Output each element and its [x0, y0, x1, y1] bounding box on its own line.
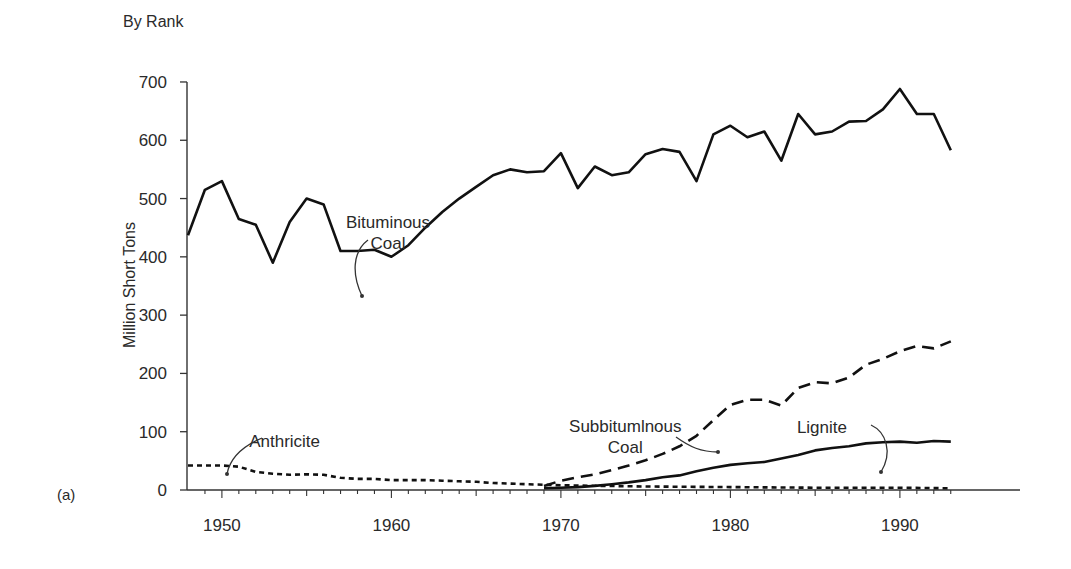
arrowhead-icon [879, 470, 883, 474]
axes: 0100200300400500600700 19501960197019801… [139, 73, 1020, 535]
y-tick-label: 400 [139, 248, 167, 267]
x-tick-label: 1980 [711, 516, 749, 535]
arrowhead-icon [360, 294, 364, 298]
annotation-subbitumlnous-coal: SubbitumlnousCoal [569, 417, 681, 457]
x-ticks: 19501960197019801990 [203, 490, 951, 535]
coal-production-chart: By Rank Million Short Tons (a) 010020030… [0, 0, 1071, 569]
annotation-anthricite: Anthricite [249, 432, 320, 451]
x-tick-label: 1990 [881, 516, 919, 535]
annotation-bituminous-coal: BituminousCoal [346, 213, 430, 253]
arrowhead-icon [225, 472, 229, 476]
annotation-text: Coal [608, 438, 643, 457]
annotation-text: Coal [371, 234, 406, 253]
y-tick-label: 700 [139, 73, 167, 92]
y-ticks: 0100200300400500600700 [139, 73, 187, 500]
annotation-lignite: Lignite [797, 418, 847, 437]
arrowhead-icon [716, 450, 720, 454]
series-anthricite [188, 466, 951, 489]
y-axis-label: Million Short Tons [121, 222, 138, 348]
annotation-text: Bituminous [346, 213, 430, 232]
annotation-layer: BituminousCoalSubbitumlnousCoalLigniteAn… [225, 213, 887, 476]
chart-title: By Rank [123, 13, 184, 30]
series-bituminous-coal [188, 89, 951, 263]
x-tick-label: 1950 [203, 516, 241, 535]
arrow-icon [871, 425, 887, 472]
x-tick-label: 1970 [542, 516, 580, 535]
y-tick-label: 200 [139, 364, 167, 383]
annotation-text: Anthricite [249, 432, 320, 451]
annotation-text: Lignite [797, 418, 847, 437]
annotation-text: Subbitumlnous [569, 417, 681, 436]
y-tick-label: 300 [139, 306, 167, 325]
x-tick-label: 1960 [372, 516, 410, 535]
y-tick-label: 600 [139, 131, 167, 150]
y-tick-label: 500 [139, 190, 167, 209]
arrow-icon [355, 240, 368, 296]
y-tick-label: 100 [139, 423, 167, 442]
panel-label: (a) [57, 486, 75, 503]
series-lignite [544, 441, 951, 488]
y-tick-label: 0 [158, 481, 167, 500]
